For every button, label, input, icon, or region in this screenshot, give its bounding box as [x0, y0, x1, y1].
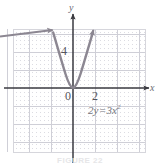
equation-operator: =	[98, 104, 106, 116]
equation-exponent: 2	[117, 103, 121, 111]
x-axis-label: x	[150, 83, 154, 93]
y-axis-label: y	[69, 3, 73, 13]
equation-lhs: 2y	[88, 104, 98, 116]
graph-figure: y x 4 0 2 2y=3x2 FIGURE 22	[0, 0, 160, 167]
y-tick-label-4: 4	[61, 45, 67, 57]
figure-caption: FIGURE 22	[0, 157, 160, 165]
equation-rhs: 3x	[107, 104, 117, 116]
grid-region	[7, 29, 145, 152]
x-tick-label-2: 2	[92, 90, 98, 102]
coordinate-plane-svg	[0, 0, 160, 167]
origin-label: 0	[65, 90, 71, 102]
curve-equation-label: 2y=3x2	[88, 104, 121, 116]
